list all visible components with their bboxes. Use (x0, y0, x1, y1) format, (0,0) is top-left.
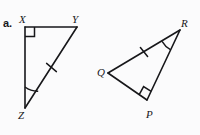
angle-arc-r (162, 41, 170, 49)
vertex-label-q: Q (97, 67, 105, 78)
geometry-figure: a. X Y Z Q R P (0, 0, 200, 135)
vertex-label-x: X (19, 14, 26, 25)
segment-pq (108, 73, 147, 100)
vertex-label-y: Y (72, 14, 78, 25)
vertex-label-p: P (146, 109, 153, 120)
vertex-label-r: R (181, 18, 188, 29)
tick-mark-qr (140, 48, 147, 57)
problem-label: a. (3, 17, 12, 29)
right-angle-mark-x (25, 27, 35, 37)
triangle-qpr (108, 30, 180, 100)
triangle-xyz (25, 27, 77, 108)
tick-mark-zy (47, 63, 57, 71)
vertex-label-z: Z (18, 110, 24, 121)
